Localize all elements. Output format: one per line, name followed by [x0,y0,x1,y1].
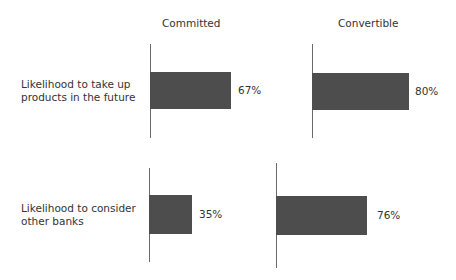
column-header-convertible: Convertible [338,17,398,29]
row-label-consider-other-banks: Likelihood to consider other banks [21,202,136,228]
value-label: 76% [377,209,400,221]
bar-convertible-other-banks [276,196,367,235]
bar-convertible-take-up [312,73,409,110]
bar-committed-other-banks [149,195,192,234]
column-header-committed: Committed [162,17,221,29]
row-label-line: Likelihood to take up [21,78,135,91]
row-label-line: Likelihood to consider [21,202,136,215]
value-label: 67% [238,84,261,96]
value-label: 35% [199,208,222,220]
bar-committed-take-up [150,72,231,109]
row-label-line: products in the future [21,91,135,104]
value-label: 80% [415,85,438,97]
row-label-take-up-products: Likelihood to take up products in the fu… [21,78,135,104]
row-label-line: other banks [21,215,136,228]
